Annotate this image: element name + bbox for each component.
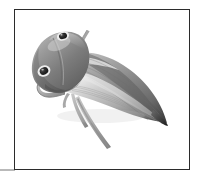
lower-eye-glint — [41, 69, 43, 71]
figure-page — [0, 0, 198, 173]
page-edge-artifact — [0, 169, 15, 171]
upper-eye-glint — [60, 34, 62, 36]
figure-frame — [14, 9, 190, 170]
insect-photo — [15, 10, 189, 169]
body-contact-shadow — [57, 109, 145, 123]
